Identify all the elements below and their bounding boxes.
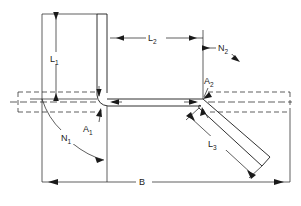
inclined-leg [199, 99, 270, 166]
label-a2: A2 [204, 76, 214, 88]
horizontal-run [107, 99, 203, 106]
vertical-leg [97, 14, 107, 95]
dimension-l1: L1 [48, 12, 65, 101]
dimension-l2: L2 [110, 31, 203, 45]
dimension-diagram-svg: L1 L2 L3 B [0, 0, 301, 206]
dimension-l3: L3 [186, 108, 262, 179]
junction-a2 [199, 105, 201, 108]
node-a2: A2 [184, 76, 214, 118]
horizontal-band [10, 92, 292, 112]
label-b: B [139, 177, 145, 187]
node-a1: A1 [83, 86, 122, 136]
label-a1: A1 [83, 124, 93, 136]
bend-a1 [97, 95, 108, 106]
technical-drawing-canvas: L1 L2 L3 B [0, 0, 301, 206]
dimension-n2: N2 [202, 41, 240, 62]
dimension-n1: N1 [42, 99, 104, 163]
